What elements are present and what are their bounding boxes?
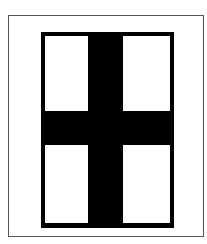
pane-bottom-left <box>45 145 88 223</box>
pane-bottom-right <box>123 145 170 223</box>
pane-top-right <box>123 36 170 111</box>
cross-frame <box>41 32 174 228</box>
pane-top-left <box>45 36 88 111</box>
